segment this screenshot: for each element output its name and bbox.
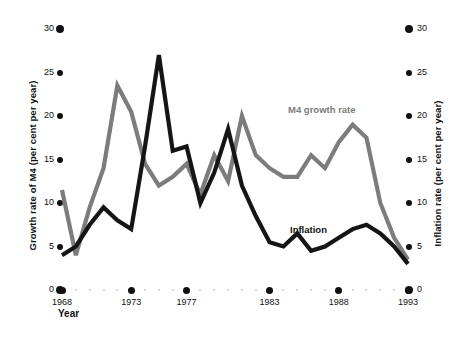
plot-lines <box>0 0 463 342</box>
line-m4-growth-rate <box>62 86 408 260</box>
chart-container: Growth rate of M4 (per cent per year) In… <box>0 0 463 342</box>
line-inflation <box>62 55 408 264</box>
